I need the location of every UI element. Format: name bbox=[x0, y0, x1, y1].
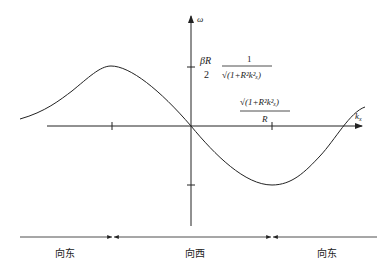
svg-text:1: 1 bbox=[247, 54, 252, 64]
svg-text:√(1+R²k²ₓ): √(1+R²k²ₓ) bbox=[222, 70, 261, 80]
x-axis-label: kx bbox=[355, 111, 362, 122]
region-label-east-right: 向东 bbox=[317, 247, 337, 259]
svg-text:2: 2 bbox=[204, 69, 209, 80]
svg-text:R: R bbox=[261, 114, 268, 124]
region-label-east-left: 向东 bbox=[55, 247, 75, 259]
y-axis-label: ω bbox=[197, 14, 203, 24]
y-tick-label: βR 2 1 √(1+R²k²ₓ) bbox=[199, 54, 272, 80]
dispersion-diagram: ω kx βR 2 1 √(1+R²k²ₓ) √(1+R²k²ₓ) R 向东 向… bbox=[0, 0, 392, 267]
region-label-west: 向西 bbox=[185, 247, 205, 259]
svg-text:βR: βR bbox=[199, 55, 211, 66]
svg-text:√(1+R²k²ₓ): √(1+R²k²ₓ) bbox=[240, 97, 279, 107]
x-tick-label: √(1+R²k²ₓ) R bbox=[240, 97, 290, 124]
